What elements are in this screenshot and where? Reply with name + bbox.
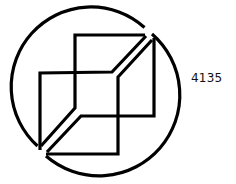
emblem-logo — [0, 0, 236, 184]
figure-number-label: 4135 — [191, 71, 222, 85]
upper-cube-shape — [40, 35, 146, 150]
lower-cube-shape — [46, 38, 154, 154]
